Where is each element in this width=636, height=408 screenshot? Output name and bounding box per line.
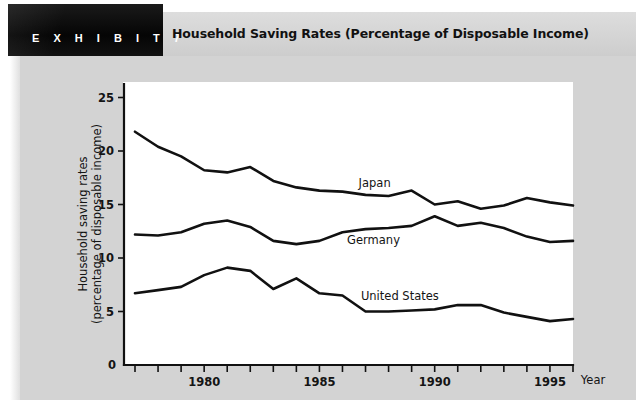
chart-axes: [124, 84, 573, 365]
exhibit-page: E X H I B I T 7 Household Saving Rates (…: [0, 0, 636, 408]
x-axis-tick-label: 1980: [188, 375, 220, 389]
x-axis-tick-label: 1995: [534, 375, 566, 389]
y-axis-title-line2: (percentage of disposable income): [90, 124, 104, 324]
x-axis-tick-label: 1990: [419, 375, 451, 389]
x-axis-tick-labels: 1980198519901995: [188, 375, 566, 389]
x-axis-tick-label: 1985: [303, 375, 335, 389]
y-axis-zero-label: 0: [108, 358, 116, 372]
line-chart: 510152025 1980198519901995 0 Household s…: [0, 0, 636, 408]
series-line-united-states: [135, 268, 573, 322]
y-axis-title-line1: Household saving rates: [76, 156, 90, 291]
series-line-japan: [135, 132, 573, 209]
chart-series: [135, 132, 573, 321]
y-axis-tick-label: 25: [98, 91, 114, 105]
series-label-japan: Japan: [358, 176, 391, 190]
y-axis-tick-label: 5: [106, 305, 114, 319]
y-axis-title: Household saving rates (percentage of di…: [76, 124, 104, 324]
x-axis-title: Year: [580, 373, 606, 387]
series-label-united-states: United States: [361, 289, 439, 303]
series-label-germany: Germany: [347, 233, 400, 247]
